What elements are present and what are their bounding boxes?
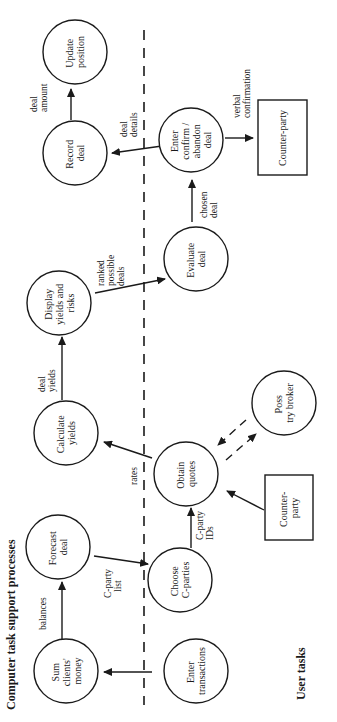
flow-label-balances: balances [38,597,48,630]
process-poss-try-broker: Poss try broker [252,371,316,435]
edge-quotes-to-broker [226,434,256,460]
edge-deal-details [112,146,162,153]
process-enter-transactions: Enter transactions [164,639,228,703]
svg-text:Obtain quotes: Obtain quotes [175,459,197,489]
diagram-canvas: Computer task support processes User tas… [0,0,337,722]
section-title-user: User tasks [294,647,308,700]
edge-counterparty-quotes [227,491,264,510]
process-record-deal: Record deal [43,121,107,185]
process-display-yields-risks: Display yields and risks [27,271,91,335]
edge-broker-to-quotes [218,420,246,445]
process-choose-cparties: Choose C-parties [148,548,212,612]
process-sum-clients-money: Sum clients' money [34,639,98,703]
svg-text:Update position: Update position [64,36,86,68]
flow-label-chosen-deal: chosen deal [199,189,219,218]
flow-label-deal-yields: deal yields [37,369,57,392]
flow-label-cparty-ids: C-party IDs [195,509,215,540]
svg-text:Choose C-parties: Choose C-parties [169,562,191,599]
process-calculate-yields: Calculate yields [34,401,98,465]
process-update-position: Update position [43,20,107,84]
flow-label-deal-details: deal details [119,112,139,137]
flow-label-ranked-possible-deals: ranked possible deals [96,252,126,286]
section-title-computer: Computer task support processes [4,539,18,710]
flow-label-rates: rates [129,467,139,485]
edge-cparty-list [94,556,148,564]
process-evaluate-deal: Evaluate deal [164,227,228,291]
flow-label-cparty-list: C-party list [103,567,123,598]
process-obtain-quotes: Obtain quotes [154,442,218,506]
flow-label-deal-amount: deal amount [29,83,49,112]
process-forecast-deal: Forecast deal [26,515,90,579]
external-counterparty-top-label: Counter-party [277,110,288,166]
flow-label-verbal-confirmation: verbal confirmation [232,69,252,118]
process-enter-confirm-abandon-deal: Enter confirm / abandon deal [159,108,223,172]
